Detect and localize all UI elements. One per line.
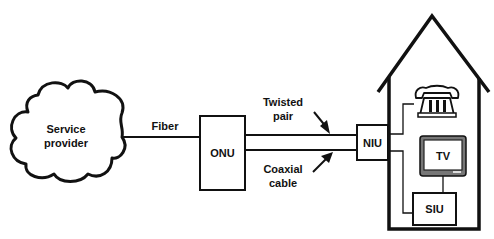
service-provider-label-2: provider xyxy=(44,137,89,149)
tv-icon: TV xyxy=(420,136,466,176)
telephone-icon xyxy=(416,86,459,117)
twisted-pair-label-2: pair xyxy=(273,110,294,122)
onu-label: ONU xyxy=(210,147,235,159)
twisted-pair-arrow-icon xyxy=(314,112,330,134)
niu-box: NIU xyxy=(357,125,388,160)
siu-label: SIU xyxy=(425,203,443,215)
phone-wire xyxy=(390,104,414,134)
coaxial-label-1: Coaxial xyxy=(263,163,302,175)
coaxial-arrow-icon xyxy=(313,152,333,172)
onu-box: ONU xyxy=(200,116,245,190)
tv-label: TV xyxy=(436,150,451,162)
service-provider-label-1: Service xyxy=(46,123,85,135)
fiber-label: Fiber xyxy=(152,120,180,132)
siu-box: SIU xyxy=(413,193,456,225)
coaxial-label-2: cable xyxy=(269,177,297,189)
fiber-to-the-curb-diagram: Service provider Fiber ONU Twisted pair … xyxy=(0,0,494,239)
niu-label: NIU xyxy=(363,137,382,149)
service-provider-cloud: Service provider xyxy=(11,81,125,182)
siu-wire xyxy=(390,151,413,213)
twisted-pair-label-1: Twisted xyxy=(263,96,303,108)
